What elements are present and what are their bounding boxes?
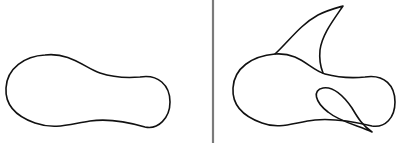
right-blob-curve	[233, 54, 395, 126]
right-panel	[233, 6, 395, 132]
shark-fin-curve	[275, 6, 343, 73]
figure-canvas	[0, 0, 405, 145]
left-panel	[6, 55, 170, 128]
teardrop-loop-curve	[316, 88, 372, 132]
left-blob-curve	[6, 55, 170, 128]
